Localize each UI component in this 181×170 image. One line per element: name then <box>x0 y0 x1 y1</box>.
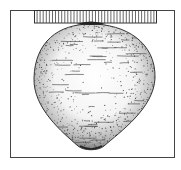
droplet-body <box>33 22 155 151</box>
hatched-bar <box>35 11 157 24</box>
patent-figure <box>0 0 181 170</box>
